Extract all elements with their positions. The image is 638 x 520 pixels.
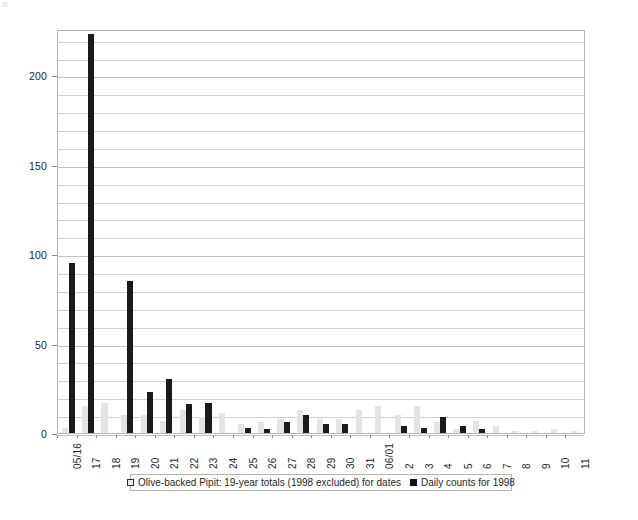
x-axis-tick-mark — [468, 435, 469, 438]
y-axis: 050100150200 — [0, 30, 57, 434]
bar-series-1 — [264, 429, 270, 433]
x-axis-tick-label: 9 — [541, 463, 552, 469]
x-axis-tick-label: 26 — [267, 457, 278, 469]
x-axis-tick-mark — [507, 435, 508, 438]
x-axis-tick-label: 7 — [502, 463, 513, 469]
x-axis-tick-label: 18 — [111, 457, 122, 469]
x-axis-tick-label: 29 — [326, 457, 337, 469]
x-axis-tick-mark — [487, 435, 488, 438]
x-axis-tick-mark — [272, 435, 273, 438]
x-axis-tick-mark — [116, 435, 117, 438]
x-axis-tick-mark — [155, 435, 156, 438]
bar-series-0 — [493, 426, 499, 433]
bar-series-1 — [69, 263, 75, 433]
x-axis-tick-label: 3 — [424, 463, 435, 469]
bar-series-0 — [512, 431, 518, 433]
x-axis-tick-label: 06/01 — [384, 443, 395, 469]
x-axis-tick-label: 22 — [189, 457, 200, 469]
bar-series-0 — [375, 406, 381, 433]
x-axis-tick-label: 05/16 — [72, 443, 83, 469]
x-axis-tick-mark — [135, 435, 136, 438]
x-axis-tick-mark — [194, 435, 195, 438]
x-axis: 05/1617181920212223242526272829303106/01… — [57, 435, 585, 471]
x-axis-tick-mark — [233, 435, 234, 438]
x-axis-tick-mark — [429, 435, 430, 438]
x-axis-tick-mark — [57, 435, 58, 438]
bar-series-1 — [421, 428, 427, 433]
chart-legend: Olive-backed Pipit: 19-year totals (1998… — [130, 474, 512, 491]
bar-series-1 — [127, 281, 133, 433]
x-axis-tick-label: 28 — [306, 457, 317, 469]
x-axis-tick-mark — [409, 435, 410, 438]
legend-entry-series-1: Daily counts for 1998 — [410, 478, 515, 488]
bar-series-0 — [532, 431, 538, 433]
x-axis-tick-label: 5 — [463, 463, 474, 469]
legend-label-series-0: Olive-backed Pipit: 19-year totals (1998… — [138, 478, 401, 488]
x-axis-tick-mark — [311, 435, 312, 438]
y-axis-tick-label: 200 — [29, 70, 47, 82]
x-axis-tick-label: 23 — [208, 457, 219, 469]
corner-artifact — [2, 2, 8, 7]
bar-series-1 — [205, 403, 211, 433]
x-axis-tick-mark — [546, 435, 547, 438]
x-axis-tick-label: 8 — [521, 463, 532, 469]
x-axis-tick-label: 25 — [248, 457, 259, 469]
x-axis-tick-label: 20 — [150, 457, 161, 469]
x-axis-tick-mark — [389, 435, 390, 438]
bar-series-1 — [284, 422, 290, 433]
x-axis-tick-label: 6 — [482, 463, 493, 469]
x-axis-tick-label: 11 — [580, 458, 591, 469]
bar-series-0 — [571, 431, 577, 433]
x-axis-tick-mark — [213, 435, 214, 438]
bar-series-1 — [303, 415, 309, 433]
chart-root: 050100150200 05/161718192021222324252627… — [0, 0, 638, 520]
bar-series-1 — [460, 426, 466, 433]
x-axis-tick-label: 31 — [365, 457, 376, 469]
legend-label-series-1: Daily counts for 1998 — [421, 478, 515, 488]
x-axis-tick-label: 2 — [404, 463, 415, 469]
y-axis-tick-label: 150 — [29, 160, 47, 172]
bar-series-0 — [551, 429, 557, 433]
bar-series-1 — [342, 424, 348, 433]
y-axis-tick-label: 0 — [41, 428, 47, 440]
x-axis-tick-mark — [253, 435, 254, 438]
x-axis-tick-label: 17 — [91, 457, 102, 469]
x-axis-tick-mark — [370, 435, 371, 438]
bar-series-0 — [219, 413, 225, 433]
bar-series-0 — [356, 410, 362, 433]
bar-group — [58, 31, 584, 433]
x-axis-tick-label: 10 — [560, 457, 571, 469]
bar-series-1 — [147, 392, 153, 433]
x-axis-tick-mark — [174, 435, 175, 438]
x-axis-tick-label: 19 — [130, 457, 141, 469]
bar-series-1 — [245, 428, 251, 433]
bar-series-1 — [323, 424, 329, 433]
x-axis-tick-mark — [565, 435, 566, 438]
x-axis-tick-label: 4 — [443, 463, 454, 469]
y-axis-tick-label: 100 — [29, 249, 47, 261]
x-axis-tick-mark — [526, 435, 527, 438]
x-axis-tick-mark — [77, 435, 78, 438]
open-square-swatch-icon — [127, 479, 134, 486]
x-axis-tick-mark — [96, 435, 97, 438]
y-axis-tick-label: 50 — [35, 339, 47, 351]
plot-area — [57, 30, 585, 434]
x-axis-tick-mark — [292, 435, 293, 438]
bar-series-1 — [440, 417, 446, 433]
bar-series-1 — [88, 34, 94, 433]
x-axis-tick-mark — [350, 435, 351, 438]
bar-series-1 — [401, 426, 407, 433]
filled-square-swatch-icon — [410, 479, 417, 486]
x-axis-tick-label: 27 — [287, 457, 298, 469]
bar-series-0 — [101, 403, 107, 433]
x-axis-tick-mark — [331, 435, 332, 438]
bar-series-1 — [479, 429, 485, 433]
bar-series-1 — [166, 379, 172, 433]
legend-entry-series-0: Olive-backed Pipit: 19-year totals (1998… — [127, 478, 401, 488]
x-axis-tick-label: 30 — [345, 457, 356, 469]
x-axis-tick-label: 24 — [228, 457, 239, 469]
bar-series-1 — [186, 404, 192, 433]
x-axis-tick-mark — [448, 435, 449, 438]
x-axis-tick-label: 21 — [169, 457, 180, 469]
